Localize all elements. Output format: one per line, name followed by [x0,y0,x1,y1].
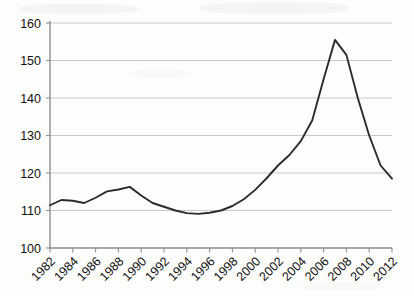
x-axis-tick-label: 2010 [348,254,378,284]
x-axis-tick-label: 1982 [29,254,59,284]
data-series-line [50,40,392,214]
line-chart: 100110120130140150160 198219841986198819… [0,0,414,296]
x-axis-tick-label: 1986 [74,254,104,284]
x-axis-tick-label: 2002 [257,254,287,284]
x-axis-tick-label: 2004 [279,254,309,284]
y-axis-tick-label: 120 [20,167,41,181]
y-axis-tick-label: 110 [21,204,41,218]
gridlines [50,23,392,211]
x-axis-tick-label: 1998 [211,254,241,284]
x-axis-tick-label: 1984 [51,254,81,284]
x-axis-tick-label: 2012 [371,254,401,284]
x-axis-tick-label: 1992 [143,254,173,284]
y-axis-tick-label: 150 [20,54,41,68]
y-axis-tick-labels: 100110120130140150160 [20,17,50,256]
x-axis-tick-label: 1994 [165,254,195,284]
y-axis-tick-label: 140 [20,92,41,106]
x-axis-tick-label: 2000 [234,254,264,284]
x-axis-tick-label: 1996 [188,254,218,284]
x-axis-tick-labels: 1982198419861988199019921994199619982000… [29,254,401,284]
y-axis-tick-label: 100 [20,242,41,256]
series-line-index [50,40,392,214]
chart-canvas: 100110120130140150160 198219841986198819… [0,0,414,296]
axis-lines [50,21,392,248]
x-axis-tick-label: 2008 [325,254,355,284]
y-axis-tick-label: 130 [20,129,41,143]
x-axis-tick-label: 1988 [97,254,127,284]
y-axis-tick-label: 160 [20,17,41,31]
x-axis-tick-label: 1990 [120,254,150,284]
x-axis-tick-label: 2006 [302,254,332,284]
